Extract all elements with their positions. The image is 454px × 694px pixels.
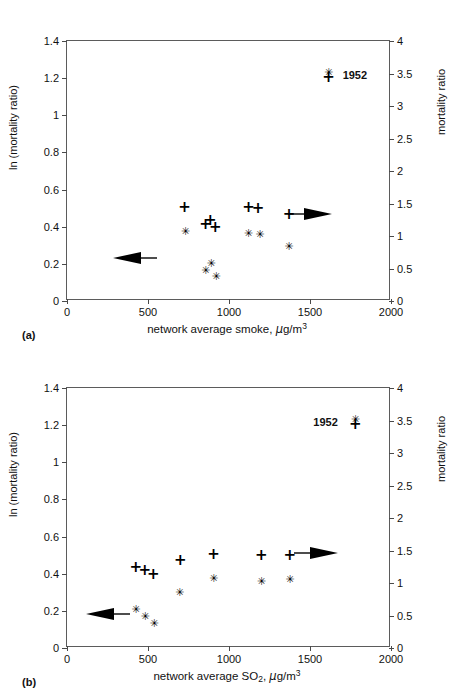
- x-axis-tick-label: 2000: [379, 307, 403, 318]
- x-axis-tick: [229, 646, 230, 651]
- y-axis-tick-label: 0.8: [44, 494, 59, 505]
- x-axis-tick-label: 0: [64, 307, 70, 318]
- y-axis-tick: [62, 227, 67, 228]
- x-axis-tick: [67, 299, 68, 304]
- y-axis-tick-label: 0.6: [44, 184, 59, 195]
- y-axis-right-tick-label: 0: [397, 643, 403, 654]
- annotation-label-1952: 1952: [313, 417, 337, 428]
- x-axis-tick-label: 1500: [298, 307, 322, 318]
- x-axis-tick: [229, 299, 230, 304]
- y-axis-right-tick-label: 1: [397, 578, 403, 589]
- x-axis-tick: [391, 646, 392, 651]
- x-axis-tick: [310, 299, 311, 304]
- y-axis-right-tick-label: 2.5: [397, 480, 412, 491]
- y-axis-tick-label: 1: [53, 457, 59, 468]
- x-axis-tick: [148, 646, 149, 651]
- y-axis-right-tick-label: 0.5: [397, 263, 412, 274]
- y-axis-right-tick-label: 3: [397, 101, 403, 112]
- y-axis-tick-label: 1: [53, 110, 59, 121]
- y-axis-tick: [62, 574, 67, 575]
- y-axis-tick-label: 0.4: [44, 568, 59, 579]
- right-axis-pointer-arrow: [286, 207, 334, 225]
- y-axis-right-tick: [389, 453, 394, 454]
- y-axis-tick: [62, 190, 67, 191]
- y-axis-right-tick: [389, 204, 394, 205]
- y-axis-right-title: mortality ratio: [436, 416, 447, 482]
- y-axis-tick: [62, 499, 67, 500]
- y-axis-right-tick: [389, 236, 394, 237]
- y-axis-tick: [62, 115, 67, 116]
- y-axis-title: ln (mortality ratio): [8, 85, 19, 170]
- x-axis-tick: [67, 646, 68, 651]
- y-axis-tick-label: 0.2: [44, 605, 59, 616]
- y-axis-right-tick: [389, 106, 394, 107]
- y-axis-right-tick: [389, 269, 394, 270]
- y-axis-tick-label: 0.8: [44, 147, 59, 158]
- y-axis-tick: [62, 388, 67, 389]
- y-axis-tick: [62, 611, 67, 612]
- x-axis-tick: [391, 299, 392, 304]
- y-axis-right-title: mortality ratio: [436, 69, 447, 135]
- y-axis-right-tick-label: 1: [397, 231, 403, 242]
- y-axis-tick: [62, 537, 67, 538]
- plot-area: 00.20.40.60.811.21.400.511.522.533.54050…: [66, 387, 390, 647]
- plot-area: 00.20.40.60.811.21.400.511.522.533.54050…: [66, 40, 390, 300]
- y-axis-right-tick-label: 2: [397, 513, 403, 524]
- y-axis-right-tick: [389, 421, 394, 422]
- x-axis-tick: [148, 299, 149, 304]
- x-axis-tick-label: 500: [139, 307, 157, 318]
- y-axis-right-tick-label: 2: [397, 166, 403, 177]
- y-axis-tick-label: 0: [53, 296, 59, 307]
- x-axis-tick-label: 500: [139, 654, 157, 665]
- x-axis-tick-label: 1500: [298, 654, 322, 665]
- annotation-label-1952: 1952: [343, 70, 367, 81]
- y-axis-right-tick-label: 3.5: [397, 68, 412, 79]
- y-axis-right-tick-label: 0.5: [397, 610, 412, 621]
- y-axis-right-tick: [389, 388, 394, 389]
- x-axis-tick-label: 2000: [379, 654, 403, 665]
- y-axis-tick-label: 0.4: [44, 221, 59, 232]
- y-axis-tick-label: 1.4: [44, 36, 59, 47]
- y-axis-right-tick: [389, 486, 394, 487]
- x-axis-tick-label: 0: [64, 654, 70, 665]
- y-axis-title: ln (mortality ratio): [8, 432, 19, 517]
- x-axis-tick-label: 1000: [217, 654, 241, 665]
- y-axis-right-tick: [389, 616, 394, 617]
- x-axis-title: network average SO2, μg/m3: [0, 669, 454, 684]
- y-axis-tick: [62, 152, 67, 153]
- x-axis-title: network average smoke, μg/m3: [0, 322, 454, 336]
- y-axis-right-tick: [389, 518, 394, 519]
- y-axis-right-tick: [389, 74, 394, 75]
- y-axis-right-tick: [389, 171, 394, 172]
- y-axis-right-tick: [389, 139, 394, 140]
- y-axis-tick-label: 0: [53, 643, 59, 654]
- y-axis-right-tick-label: 4: [397, 36, 403, 47]
- y-axis-tick: [62, 264, 67, 265]
- y-axis-right-tick: [389, 41, 394, 42]
- y-axis-tick-label: 1.4: [44, 383, 59, 394]
- y-axis-right-tick-label: 4: [397, 383, 403, 394]
- y-axis-tick: [62, 41, 67, 42]
- y-axis-tick-label: 0.6: [44, 531, 59, 542]
- y-axis-tick: [62, 425, 67, 426]
- panel-label: (a): [22, 330, 35, 341]
- left-axis-pointer-arrow: [84, 607, 132, 625]
- panel-label: (b): [22, 677, 36, 688]
- chart-panel-b: 00.20.40.60.811.21.400.511.522.533.54050…: [0, 347, 454, 694]
- x-axis-tick-label: 1000: [217, 307, 241, 318]
- y-axis-right-tick: [389, 583, 394, 584]
- y-axis-right-tick-label: 3.5: [397, 415, 412, 426]
- y-axis-right-tick: [389, 551, 394, 552]
- y-axis-right-tick-label: 0: [397, 296, 403, 307]
- x-axis-tick: [310, 646, 311, 651]
- y-axis-tick: [62, 78, 67, 79]
- left-axis-pointer-arrow: [111, 251, 159, 269]
- chart-panel-a: 00.20.40.60.811.21.400.511.522.533.54050…: [0, 0, 454, 347]
- y-axis-tick: [62, 462, 67, 463]
- y-axis-tick-label: 1.2: [44, 73, 59, 84]
- y-axis-tick-label: 1.2: [44, 420, 59, 431]
- y-axis-right-tick-label: 2.5: [397, 133, 412, 144]
- y-axis-tick-label: 0.2: [44, 258, 59, 269]
- y-axis-right-tick-label: 1.5: [397, 198, 412, 209]
- right-axis-pointer-arrow: [292, 546, 340, 564]
